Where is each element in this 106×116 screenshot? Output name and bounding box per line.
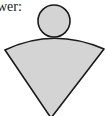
figure	[0, 0, 106, 116]
sector-shape	[5, 38, 104, 116]
circle-shape	[38, 5, 70, 37]
